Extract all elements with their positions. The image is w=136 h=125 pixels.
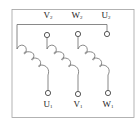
coil-3-icon xyxy=(78,45,109,90)
terminal-w2 xyxy=(75,31,80,36)
winding-diagram xyxy=(0,0,136,125)
coil-1-icon xyxy=(17,45,49,90)
coil-2-icon xyxy=(47,45,79,91)
label-w2: W2 xyxy=(72,11,83,20)
top-bus-wire xyxy=(17,25,107,50)
terminal-w1 xyxy=(105,90,110,95)
terminal-u2 xyxy=(104,31,109,36)
label-v2: V2 xyxy=(44,11,53,20)
terminal-v1 xyxy=(75,91,80,96)
terminal-u1 xyxy=(45,90,50,95)
label-v1: V1 xyxy=(74,100,83,109)
label-u1: U1 xyxy=(44,100,53,109)
label-u2: U2 xyxy=(102,11,111,20)
terminal-v2 xyxy=(44,32,49,37)
label-w1: W1 xyxy=(103,100,114,109)
